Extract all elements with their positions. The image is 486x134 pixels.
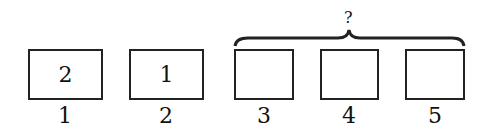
box-4 xyxy=(320,49,379,100)
position-label-5: 5 xyxy=(415,103,455,128)
box-5 xyxy=(405,49,465,100)
box-3 xyxy=(234,49,294,100)
question-mark: ? xyxy=(344,8,353,27)
position-label-4: 4 xyxy=(329,103,369,128)
box-1: 2 xyxy=(28,49,103,100)
position-label-2: 2 xyxy=(146,103,186,128)
position-label-3: 3 xyxy=(244,103,284,128)
box-2: 1 xyxy=(129,49,204,100)
position-label-1: 1 xyxy=(45,103,85,128)
